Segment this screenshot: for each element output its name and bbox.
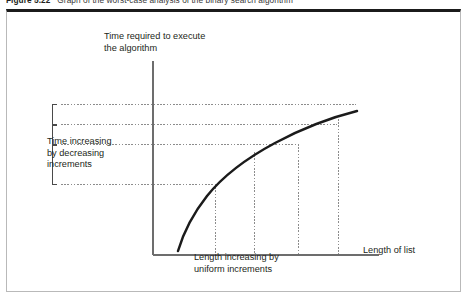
x-axis-title: Length increasing by uniform increments <box>194 252 279 275</box>
log-curve <box>178 111 357 251</box>
y-axis-title: Time required to execute the algorithm <box>104 31 205 54</box>
bracket-annotation-label: Time increasing by decreasing increments <box>47 136 112 171</box>
figure-number: Figure 5.22 <box>6 0 50 5</box>
bracket-1 <box>52 104 57 124</box>
x-axis-name: Length of list <box>363 245 415 257</box>
vertical-guide-lines <box>215 119 338 255</box>
figure-caption: Figure 5.22Graph of the worst-case analy… <box>6 0 466 6</box>
chart-axes <box>153 61 366 255</box>
figure-caption-text: Graph of the worst-case analysis of the … <box>57 0 293 5</box>
